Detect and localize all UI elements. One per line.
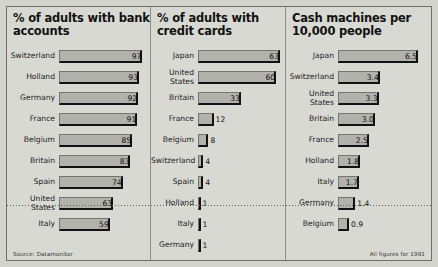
bar-value-label: 74 — [112, 177, 122, 188]
bar-track: 91 — [59, 109, 148, 130]
bar-value-label: 6.5 — [405, 51, 417, 62]
bar-category-label: Spain — [151, 178, 198, 186]
bar-track: 1.8 — [338, 151, 421, 172]
bar-track: 63 — [198, 46, 283, 67]
bar-bank-accounts-france — [59, 113, 137, 126]
bar-row: Belgium8 — [151, 130, 283, 151]
bar-credit-cards-united-states — [198, 71, 276, 84]
bar-category-label: Belgium — [286, 220, 338, 228]
bar-value-label: 1 — [203, 240, 208, 251]
bar-row: Japan63 — [151, 46, 283, 67]
bar-category-label: Belgium — [151, 136, 198, 144]
bar-value-label: 12 — [216, 114, 226, 125]
bar-category-label: Germany — [7, 94, 59, 102]
bar-row: Switzerland97 — [7, 46, 148, 67]
bar-row: United States60 — [151, 67, 283, 88]
bar-value-label: 60 — [265, 72, 275, 83]
bar-track: 33 — [198, 88, 283, 109]
bar-value-label: 3.0 — [362, 114, 374, 125]
bar-category-label: Switzerland — [286, 73, 338, 81]
bar-value-label: 83 — [120, 156, 130, 167]
bar-track: 0.9 — [338, 214, 421, 235]
bar-category-label: Switzerland — [7, 52, 59, 60]
bar-track: 60 — [198, 67, 283, 88]
bar-category-label: Holland — [7, 73, 59, 81]
bar-value-label: 63 — [269, 51, 279, 62]
bar-category-label: Holland — [151, 199, 198, 207]
bar-category-label: Italy — [151, 220, 198, 228]
bar-track: 1 — [198, 214, 283, 235]
bar-value-label: 8 — [210, 135, 215, 146]
bar-track: 12 — [198, 109, 283, 130]
chart-panel-cash-machines: Cash machines per 10,000 people Japan6.5… — [286, 7, 424, 260]
bar-row: Britain83 — [7, 151, 148, 172]
bar-credit-cards-switzerland — [198, 155, 203, 168]
bar-credit-cards-germany — [198, 239, 201, 252]
bar-track: 93 — [59, 67, 148, 88]
bar-value-label: 3.3 — [366, 93, 378, 104]
bar-row: Britain3.0 — [286, 109, 421, 130]
bar-row: Italy1 — [151, 214, 283, 235]
bar-row: Spain74 — [7, 172, 148, 193]
bar-track: 3.0 — [338, 109, 421, 130]
bar-category-label: Holland — [286, 157, 338, 165]
panel-title-credit-cards: % of adults with credit cards — [157, 7, 286, 37]
bar-value-label: 1.8 — [347, 156, 359, 167]
bar-row: Holland1.8 — [286, 151, 421, 172]
panel-title-bank-accounts: % of adults with bank accounts — [13, 7, 151, 37]
bar-row: Britain33 — [151, 88, 283, 109]
bar-track: 4 — [198, 172, 283, 193]
bar-track: 1 — [198, 193, 283, 214]
bar-category-label: United States — [286, 90, 338, 107]
bar-track: 4 — [198, 151, 283, 172]
bar-category-label: Belgium — [7, 136, 59, 144]
bar-row: Belgium85 — [7, 130, 148, 151]
bar-row: Holland1 — [151, 193, 283, 214]
bar-value-label: 1 — [203, 219, 208, 230]
chart-panel-credit-cards: % of adults with credit cards Japan63Uni… — [151, 7, 286, 260]
bar-row: France12 — [151, 109, 283, 130]
bar-row: Holland93 — [7, 67, 148, 88]
bar-track: 59 — [59, 214, 148, 235]
bar-row: France91 — [7, 109, 148, 130]
chart-panel-bank-accounts: % of adults with bank accounts Switzerla… — [7, 7, 151, 260]
bar-category-label: Switzerland — [151, 157, 198, 165]
bar-category-label: France — [286, 136, 338, 144]
bar-value-label: 2.5 — [356, 135, 368, 146]
bar-row: Spain4 — [151, 172, 283, 193]
bar-track: 6.5 — [338, 46, 421, 67]
bar-category-label: Germany — [151, 241, 198, 249]
bar-track: 74 — [59, 172, 148, 193]
bar-category-label: United States — [151, 69, 198, 86]
bar-value-label: 4 — [205, 177, 210, 188]
bar-value-label: 93 — [128, 72, 138, 83]
bar-row: Italy59 — [7, 214, 148, 235]
bar-rows-bank-accounts: Switzerland97Holland93Germany92France91B… — [7, 46, 148, 235]
bar-value-label: 1 — [203, 198, 208, 209]
source-credit: Source: Datamonitor — [13, 251, 73, 257]
bar-category-label: Britain — [151, 94, 198, 102]
bar-credit-cards-france — [198, 113, 214, 126]
bar-cash-machines-germany — [338, 197, 355, 210]
bar-bank-accounts-holland — [59, 71, 139, 84]
bar-row: Switzerland3.4 — [286, 67, 421, 88]
bar-value-label: 97 — [132, 51, 142, 62]
bar-category-label: France — [7, 115, 59, 123]
bar-category-label: United States — [7, 195, 59, 212]
bar-row: United States3.3 — [286, 88, 421, 109]
bar-credit-cards-holland — [198, 197, 201, 210]
bar-row: Switzerland4 — [151, 151, 283, 172]
bar-track: 83 — [59, 151, 148, 172]
bar-category-label: Italy — [286, 178, 338, 186]
bar-category-label: Spain — [7, 178, 59, 186]
bar-row: Germany92 — [7, 88, 148, 109]
bar-track: 1.4 — [338, 193, 421, 214]
bar-track: 97 — [59, 46, 148, 67]
bar-track: 85 — [59, 130, 148, 151]
bar-category-label: Japan — [151, 52, 198, 60]
bar-row: Germany1 — [151, 235, 283, 256]
bar-value-label: 85 — [121, 135, 131, 146]
bar-row: Italy1.7 — [286, 172, 421, 193]
bar-track: 1.7 — [338, 172, 421, 193]
dotted-separator-line — [7, 205, 431, 206]
